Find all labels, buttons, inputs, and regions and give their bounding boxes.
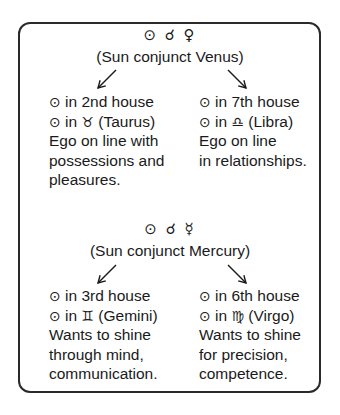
section-title-mercury: (Sun conjunct Mercury) — [0, 241, 340, 261]
sun-icon: ⊙ — [49, 288, 61, 304]
sun-icon: ⊙ — [199, 288, 211, 304]
description-line: through mind, — [49, 345, 158, 365]
sun-icon: ⊙ — [199, 94, 211, 110]
description-line: pleasures. — [49, 170, 164, 190]
sign-line: ⊙ in ♊ (Gemini) — [49, 306, 158, 326]
virgo-icon: ♍ — [231, 308, 244, 324]
sign-line: ⊙ in ♍ (Virgo) — [199, 306, 301, 326]
house-line: ⊙ in 6th house — [199, 286, 301, 306]
venus-left-column: ⊙ in 2nd house ⊙ in ♉ (Taurus) Ego on li… — [49, 92, 164, 190]
sun-conjunct-venus-symbols: ⊙ ☌ ♀ — [0, 25, 340, 45]
libra-icon: ♎ — [231, 114, 244, 130]
description-line: possessions and — [49, 151, 164, 171]
sign-line: ⊙ in ♉ (Taurus) — [49, 112, 164, 132]
description-line: communication. — [49, 364, 158, 384]
sun-icon: ⊙ — [199, 114, 211, 130]
section-title-venus: (Sun conjunct Venus) — [0, 47, 340, 67]
taurus-icon: ♉ — [81, 114, 94, 130]
house-line: ⊙ in 7th house — [199, 92, 307, 112]
sun-icon: ⊙ — [49, 94, 61, 110]
description-line: Ego on line — [199, 131, 307, 151]
description-line: in relationships. — [199, 151, 307, 171]
gemini-icon: ♊ — [81, 308, 94, 324]
description-line: competence. — [199, 364, 301, 384]
sun-icon: ⊙ — [199, 308, 211, 324]
venus-right-column: ⊙ in 7th house ⊙ in ♎ (Libra) Ego on lin… — [199, 92, 307, 170]
mercury-left-column: ⊙ in 3rd house ⊙ in ♊ (Gemini) Wants to … — [49, 286, 158, 384]
sun-icon: ⊙ — [49, 114, 61, 130]
mercury-right-column: ⊙ in 6th house ⊙ in ♍ (Virgo) Wants to s… — [199, 286, 301, 384]
sign-line: ⊙ in ♎ (Libra) — [199, 112, 307, 132]
description-line: Wants to shine — [199, 325, 301, 345]
sun-conjunct-mercury-symbols: ⊙ ☌ ☿ — [0, 219, 340, 239]
description-line: for precision, — [199, 345, 301, 365]
description-line: Ego on line with — [49, 131, 164, 151]
description-line: Wants to shine — [49, 325, 158, 345]
house-line: ⊙ in 2nd house — [49, 92, 164, 112]
sun-icon: ⊙ — [49, 308, 61, 324]
house-line: ⊙ in 3rd house — [49, 286, 158, 306]
